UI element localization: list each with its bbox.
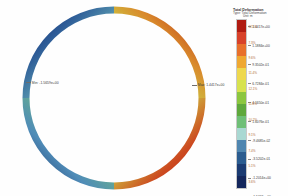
tick-dash — [248, 83, 251, 84]
tick-value-label: -1.5659e+00 — [252, 195, 271, 196]
colorbar-band — [237, 128, 246, 140]
colorbar-tick-labels: 1.4417e+001.1884e+009.3502e-016.7284e-01… — [248, 19, 288, 189]
colorbar-band-percent-label: 9.1% — [249, 135, 256, 139]
colorbar-band-percent-label: 5.1% — [249, 166, 256, 170]
colorbar-band — [237, 44, 246, 56]
colorbar-band — [237, 32, 246, 44]
colorbar-band — [237, 104, 246, 116]
colorbar[interactable] — [236, 19, 247, 189]
colorbar-band — [237, 80, 246, 92]
colorbar-band-percent-label: 11.4% — [249, 73, 258, 77]
colorbar-band-percent-label: 9.6% — [249, 58, 256, 62]
ring-arc-top-right — [114, 10, 202, 98]
tick-value-label: 6.7284e-01 — [252, 82, 269, 86]
colorbar-band-percent-label: 3.6% — [249, 181, 256, 185]
max-leader-line — [192, 85, 197, 86]
color-legend: Total Deformation Type: Total Deformatio… — [231, 8, 288, 190]
colorbar-band-percent-label: 10.2% — [249, 119, 258, 123]
max-value-annotation: Max: 1.4417e+00 — [192, 84, 224, 87]
tick-dash — [248, 178, 251, 179]
colorbar-band-percent-label: 12.1% — [249, 89, 258, 93]
colorbar-band — [237, 20, 246, 32]
colorbar-band-percent-label: 7.3% — [249, 42, 256, 46]
tick-dash — [248, 140, 251, 141]
ring-arc-bottom-left — [26, 98, 114, 186]
colorbar-band — [237, 140, 246, 152]
colorbar-band — [237, 176, 246, 188]
colorbar-band — [237, 152, 246, 164]
colorbar-band-percent-label: 12.5% — [249, 27, 258, 31]
colorbar-band — [237, 92, 246, 104]
colorbar-band-percent-label: 7.4% — [249, 150, 256, 154]
colorbar-band — [237, 116, 246, 128]
min-value-annotation: Min: -1.5659e+00 — [26, 82, 59, 85]
tick-dash — [248, 64, 251, 65]
colorbar-band-percent-label: 11.8% — [249, 104, 258, 108]
tick-value-label: -3.5202e-01 — [252, 157, 270, 161]
plot-area: Min: -1.5659e+00 Max: 1.4417e+00 — [0, 0, 230, 196]
colorbar-band — [237, 68, 246, 80]
contour-plot-viewport: Min: -1.5659e+00 Max: 1.4417e+00 Total D… — [0, 0, 288, 196]
ring-arc-bottom-right — [114, 98, 202, 186]
tick-value-label: 9.3502e-01 — [252, 63, 269, 67]
colorbar-band — [237, 56, 246, 68]
colorbar-band — [237, 164, 246, 176]
min-leader-line — [26, 82, 31, 83]
min-value-label: Min: -1.5659e+00 — [32, 81, 59, 85]
max-value-label: Max: 1.4417e+00 — [198, 83, 225, 87]
tick-dash — [248, 159, 251, 160]
deformation-ring-graphic — [0, 0, 230, 196]
